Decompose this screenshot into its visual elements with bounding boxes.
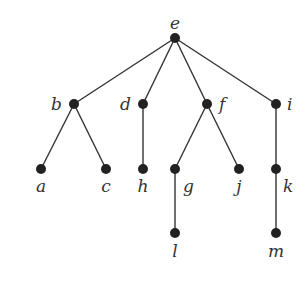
node-j [234,164,244,174]
node-label-e: e [170,13,180,33]
node-label-m: m [268,241,284,261]
tree-nodes [36,33,281,238]
edge-f-g [175,104,207,169]
node-c [101,164,111,174]
node-l [170,228,180,238]
node-b [69,99,79,109]
node-label-g: g [183,176,194,196]
node-label-j: j [232,176,242,196]
node-e [170,33,180,43]
node-h [138,164,148,174]
node-d [138,99,148,109]
node-label-b: b [51,94,62,114]
tree-labels: ebdfiachgjklm [36,13,293,261]
node-a [36,164,46,174]
node-label-f: f [217,94,228,114]
node-m [271,228,281,238]
node-label-h: h [138,176,149,196]
node-k [271,164,281,174]
node-i [271,99,281,109]
tree-edges [41,38,276,233]
edge-b-c [74,104,106,169]
node-label-l: l [172,241,177,261]
node-label-c: c [101,176,111,196]
node-label-a: a [36,176,46,196]
tree-diagram: ebdfiachgjklm [0,0,308,281]
node-label-i: i [287,94,292,114]
node-f [202,99,212,109]
node-label-d: d [120,94,131,114]
node-label-k: k [283,176,293,196]
node-g [170,164,180,174]
edge-e-i [175,38,276,104]
